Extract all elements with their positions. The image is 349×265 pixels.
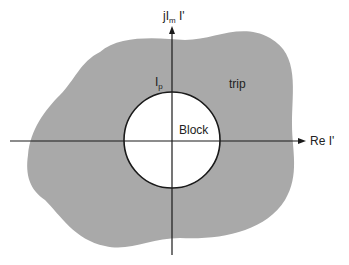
real-axis-arrow-icon — [298, 138, 306, 144]
block-label: Block — [179, 123, 209, 137]
imag-axis-arrow-icon — [169, 26, 175, 34]
trip-label: trip — [229, 77, 246, 91]
imag-axis-label: jIm I' — [162, 9, 185, 25]
real-axis-label: Re I' — [310, 134, 334, 148]
complex-plane-diagram: jIm I' Re I' trip Block Ip — [0, 0, 349, 265]
